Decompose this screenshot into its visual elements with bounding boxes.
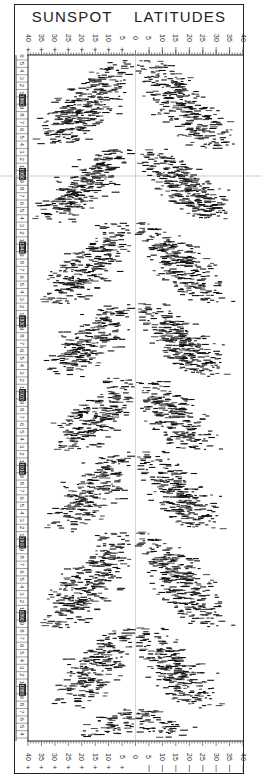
svg-text:6: 6 (19, 423, 25, 427)
svg-text:25: 25 (65, 34, 72, 42)
svg-text:4: 4 (19, 143, 25, 147)
svg-text:+: + (106, 45, 111, 54)
year-label: 2 (19, 452, 25, 456)
svg-text:30: 30 (213, 34, 220, 42)
svg-text:+: + (79, 763, 84, 772)
year-label: 9 (19, 695, 25, 699)
svg-text:|: | (242, 763, 244, 772)
svg-text:3: 3 (19, 298, 25, 302)
year-label: 9 (19, 474, 25, 478)
year-label: 4 (19, 364, 25, 368)
year-label: 7 (19, 121, 25, 125)
year-label: 2 (19, 379, 25, 383)
year-label: 6 (19, 718, 25, 722)
svg-text:+: + (26, 763, 31, 772)
svg-text:6: 6 (19, 644, 25, 648)
x-tick-label: 5 (145, 755, 152, 759)
year-label: 6 (19, 570, 25, 574)
svg-text:9: 9 (19, 253, 25, 257)
year-label: 7 (19, 710, 25, 714)
year-label: 9 (19, 622, 25, 626)
svg-text:3: 3 (19, 592, 25, 596)
svg-text:8: 8 (19, 703, 25, 707)
svg-text:+: + (106, 763, 111, 772)
svg-text:5: 5 (19, 430, 25, 434)
svg-text:15: 15 (172, 34, 179, 42)
year-label: 4 (19, 69, 25, 73)
svg-text:|: | (161, 45, 163, 54)
svg-text:30: 30 (51, 34, 58, 42)
svg-text:+: + (66, 45, 71, 54)
svg-text:10: 10 (159, 34, 166, 42)
year-label: 9 (19, 548, 25, 552)
x-tick-label: 20 (78, 34, 85, 42)
svg-text:35: 35 (226, 34, 233, 42)
svg-text:7: 7 (19, 637, 25, 641)
svg-text:4: 4 (19, 69, 25, 73)
x-tick-label: 10 (159, 753, 166, 761)
decade-label: 1890 (19, 610, 26, 622)
year-label: 5 (19, 504, 25, 508)
year-label: 3 (19, 76, 25, 80)
svg-text:|: | (215, 45, 217, 54)
svg-text:4: 4 (19, 438, 25, 442)
butterfly-plot: 40+35+30+25+20+15+10+5+05|10|15|20|25|30… (0, 0, 261, 781)
svg-text:+: + (39, 45, 44, 54)
x-tick-label: 0 (132, 36, 139, 40)
svg-text:8: 8 (19, 261, 25, 265)
year-label: 7 (19, 563, 25, 567)
year-label: 8 (19, 334, 25, 338)
svg-text:30: 30 (213, 753, 220, 761)
year-label: 3 (19, 445, 25, 449)
svg-text:8: 8 (19, 408, 25, 412)
svg-text:10: 10 (105, 34, 112, 42)
svg-text:|: | (175, 763, 177, 772)
year-label: 3 (19, 592, 25, 596)
svg-text:1910: 1910 (19, 463, 25, 474)
svg-text:5: 5 (19, 504, 25, 508)
x-tick-label: 5 (119, 755, 126, 759)
svg-text:8: 8 (19, 482, 25, 486)
svg-text:5: 5 (145, 755, 152, 759)
decade-label: 1880 (19, 684, 26, 696)
svg-text:40: 40 (240, 34, 247, 42)
svg-text:8: 8 (19, 187, 25, 191)
svg-text:8: 8 (19, 113, 25, 117)
svg-text:15: 15 (92, 753, 99, 761)
decade-label: 1900 (19, 536, 26, 548)
year-label: 7 (19, 342, 25, 346)
svg-text:3: 3 (19, 224, 25, 228)
svg-text:0: 0 (132, 36, 139, 40)
year-label: 8 (19, 555, 25, 559)
svg-text:2: 2 (19, 84, 25, 88)
x-tick-label: 15 (172, 34, 179, 42)
svg-text:6: 6 (19, 497, 25, 501)
year-label: 4 (19, 438, 25, 442)
svg-text:8: 8 (19, 334, 25, 338)
svg-text:1950: 1950 (19, 168, 25, 179)
year-label: 5 (19, 209, 25, 213)
x-tick-label: 30 (51, 753, 58, 761)
svg-text:3: 3 (19, 150, 25, 154)
svg-text:7: 7 (19, 415, 25, 419)
x-tick-label: 35 (226, 34, 233, 42)
svg-text:40: 40 (25, 753, 32, 761)
year-label: 2 (19, 158, 25, 162)
x-tick-label: 35 (38, 753, 45, 761)
year-label: 5 (19, 135, 25, 139)
svg-text:3: 3 (19, 76, 25, 80)
svg-text:0: 0 (132, 755, 139, 759)
svg-text:25: 25 (199, 753, 206, 761)
x-tick-label: 5 (119, 36, 126, 40)
svg-text:+: + (79, 45, 84, 54)
svg-text:|: | (242, 45, 244, 54)
x-tick-label: 20 (78, 753, 85, 761)
year-label: 2 (19, 600, 25, 604)
year-label: 5 (19, 283, 25, 287)
svg-text:2: 2 (19, 452, 25, 456)
svg-text:+: + (53, 763, 58, 772)
svg-text:25: 25 (199, 34, 206, 42)
svg-text:9: 9 (19, 401, 25, 405)
svg-text:2: 2 (19, 600, 25, 604)
svg-text:4: 4 (19, 732, 25, 736)
